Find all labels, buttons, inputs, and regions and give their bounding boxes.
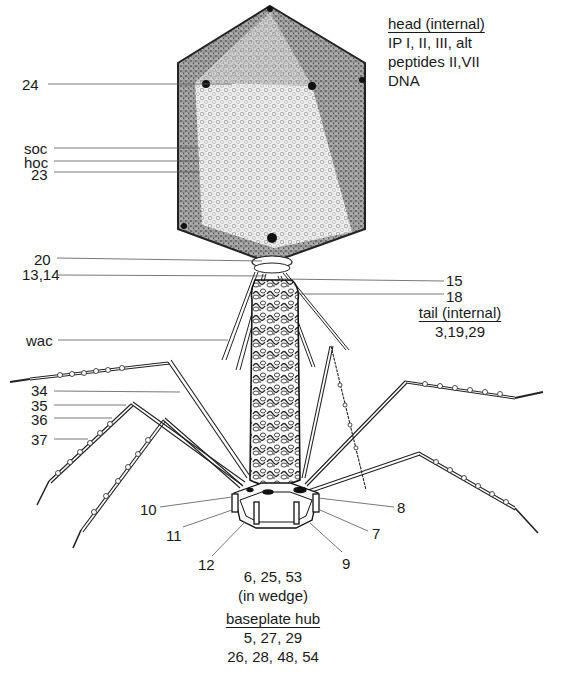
wedge-line: 6, 25, 53 bbox=[218, 567, 328, 586]
fiber-beads-left bbox=[56, 366, 151, 515]
head-internal-line: peptides II,VII bbox=[388, 52, 485, 71]
part-label: 15 bbox=[446, 273, 463, 288]
baseplate bbox=[232, 483, 319, 528]
leader-line bbox=[183, 510, 232, 527]
leader-line bbox=[58, 275, 265, 276]
leader-line bbox=[57, 258, 262, 261]
tail-internal-title: tail (internal) bbox=[410, 303, 510, 322]
part-label: 13,14 bbox=[22, 267, 60, 282]
tail-internal-block: tail (internal) 3,19,29 bbox=[410, 303, 510, 341]
part-label: 9 bbox=[342, 556, 350, 571]
tail-internal-line: 3,19,29 bbox=[410, 322, 510, 341]
head-internal-line: DNA bbox=[388, 71, 485, 90]
head-internal-block: head (internal) IP I, II, III, alt pepti… bbox=[388, 14, 485, 90]
leader-line bbox=[310, 523, 342, 552]
part-label: 23 bbox=[31, 167, 48, 182]
baseplate-hub-block: baseplate hub 5, 27, 29 26, 28, 48, 54 bbox=[203, 609, 343, 666]
baseplate-hub-line: 26, 28, 48, 54 bbox=[203, 647, 343, 666]
leader-line bbox=[318, 498, 394, 507]
head-internal-title: head (internal) bbox=[388, 14, 485, 33]
leader-line bbox=[54, 391, 180, 392]
fiber-beads-right bbox=[338, 382, 509, 505]
baseplate-hub-line: 5, 27, 29 bbox=[203, 628, 343, 647]
part-label: 12 bbox=[198, 557, 215, 572]
tail-fibers-right bbox=[302, 346, 543, 533]
part-label: 18 bbox=[446, 289, 463, 304]
leader-line bbox=[280, 279, 444, 281]
part-label: 7 bbox=[372, 526, 380, 541]
leader-line bbox=[320, 510, 368, 531]
leader-line bbox=[212, 522, 245, 556]
part-label: 10 bbox=[140, 502, 157, 517]
neck-collar bbox=[252, 256, 292, 273]
tail-sheath bbox=[250, 280, 300, 486]
baseplate-hub-title: baseplate hub bbox=[203, 609, 343, 628]
leader-line bbox=[160, 497, 232, 507]
wedge-block: 6, 25, 53 (in wedge) bbox=[218, 567, 328, 605]
wedge-line: (in wedge) bbox=[218, 586, 328, 605]
part-label: 11 bbox=[166, 528, 182, 543]
part-label: wac bbox=[26, 333, 53, 348]
part-label: 24 bbox=[22, 77, 39, 92]
part-label: 8 bbox=[397, 500, 405, 515]
part-label: 36 bbox=[31, 412, 48, 427]
capsid-head bbox=[178, 6, 365, 263]
part-label: 34 bbox=[31, 383, 48, 398]
part-label: 20 bbox=[34, 252, 51, 267]
head-internal-line: IP I, II, III, alt bbox=[388, 33, 485, 52]
part-label: 37 bbox=[31, 432, 48, 447]
